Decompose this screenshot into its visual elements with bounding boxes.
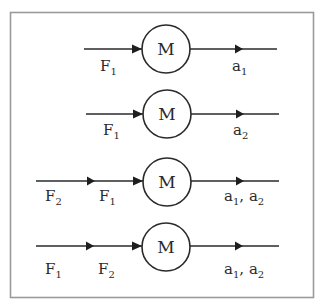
arrowhead-icon [236,110,244,119]
force-label-f1: F1 [45,260,62,280]
accel-label: a1, a2 [224,260,264,280]
arrowhead-icon [133,110,143,119]
row-4: M F1 F2 a1, a2 [36,223,279,280]
mass-label: M [158,172,175,192]
mass-label: M [157,39,174,59]
arrowhead-icon [235,242,243,251]
arrowhead-icon [86,242,94,251]
force-label-f2: F2 [45,187,62,207]
force-label-f1: F1 [100,57,117,77]
mass-label: M [157,237,174,257]
arrowhead-icon [87,177,95,186]
accel-label: a1, a2 [224,187,264,207]
arrowhead-icon [133,177,143,186]
row-3: M F2 F1 a1, a2 [36,158,279,207]
row-1: M F1 a1 [84,25,277,77]
accel-label: a1 [232,57,247,77]
force-label-f1: F1 [103,121,120,141]
accel-label: a2 [233,121,248,141]
force-label-f1: F1 [99,187,116,207]
arrowhead-icon [132,45,142,54]
force-label-f2: F2 [98,260,115,280]
arrowhead-icon [236,177,244,186]
row-2: M F1 a2 [86,90,279,141]
mass-label: M [158,104,175,124]
arrowhead-icon [132,242,142,251]
force-acceleration-diagram: M F1 a1 M F1 a2 M F2 F1 a1, a2 M [0,0,325,308]
arrowhead-icon [235,45,243,54]
